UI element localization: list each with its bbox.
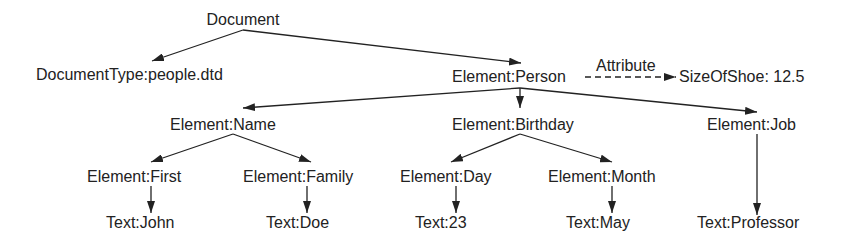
edge-label-attribute: Attribute bbox=[596, 57, 656, 74]
edge-birthday-day bbox=[451, 134, 520, 162]
edge-person-job bbox=[520, 88, 757, 112]
diagram-canvas: Document DocumentType:people.dtd Element… bbox=[0, 0, 857, 252]
node-text-23: Text:23 bbox=[415, 214, 467, 231]
edge-name-first bbox=[151, 134, 233, 162]
dom-tree-diagram: Document DocumentType:people.dtd Element… bbox=[0, 0, 857, 252]
node-text-professor: Text:Professor bbox=[697, 214, 800, 231]
node-first: Element:First bbox=[87, 168, 182, 185]
node-name: Element:Name bbox=[170, 116, 276, 133]
node-text-may: Text:May bbox=[566, 214, 630, 231]
node-text-john: Text:John bbox=[106, 214, 174, 231]
node-month: Element:Month bbox=[548, 168, 656, 185]
node-document: Document bbox=[207, 11, 280, 28]
node-job: Element:Job bbox=[707, 116, 796, 133]
node-attribute-value: SizeOfShoe: 12.5 bbox=[679, 68, 805, 85]
node-day: Element:Day bbox=[400, 168, 492, 185]
node-doctype: DocumentType:people.dtd bbox=[36, 66, 223, 83]
edge-name-family bbox=[233, 134, 311, 162]
node-text-doe: Text:Doe bbox=[266, 214, 329, 231]
edge-birthday-month bbox=[520, 134, 612, 162]
node-birthday: Element:Birthday bbox=[452, 116, 574, 133]
edge-document-doctype bbox=[152, 30, 243, 61]
node-family: Element:Family bbox=[243, 168, 353, 185]
edge-person-name bbox=[243, 88, 520, 108]
edge-document-person bbox=[243, 30, 521, 63]
node-person: Element:Person bbox=[452, 68, 566, 85]
